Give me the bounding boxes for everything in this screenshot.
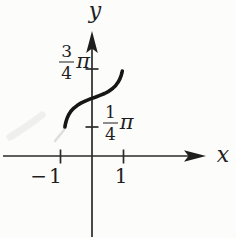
y-tick-label-three-quarter-pi: 3 4 π (59, 43, 90, 82)
x-tick-label-1: 1 (115, 166, 130, 186)
fraction-numerator: 3 (59, 43, 74, 63)
fraction-three-quarters: 3 4 (59, 43, 74, 82)
fraction-one-quarter: 1 4 (103, 104, 118, 143)
function-graph-figure: y x −1 1 3 4 π 1 4 π (0, 0, 236, 238)
pi-symbol: π (76, 51, 90, 74)
fraction-numerator: 1 (103, 104, 118, 124)
scan-smudge (55, 130, 64, 141)
fraction-denominator: 4 (61, 63, 72, 82)
scan-smudge (10, 115, 42, 137)
fraction-denominator: 4 (105, 124, 116, 143)
x-tick-label-minus-1: −1 (30, 166, 63, 186)
y-axis-label: y (89, 0, 101, 22)
y-tick-label-quarter-pi: 1 4 π (103, 104, 134, 143)
x-axis-label: x (217, 144, 229, 166)
pi-symbol: π (120, 112, 134, 135)
